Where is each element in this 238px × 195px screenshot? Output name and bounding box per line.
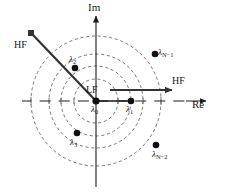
eigenvalue-dot-lambda-2: [72, 65, 79, 72]
low-frequency-label: LF: [86, 85, 98, 95]
lambda-N-1-subscript: N−1: [162, 51, 174, 58]
hf-arrow-diagonal-cap: [28, 30, 34, 36]
eigenvalue-label-lambda-1: λ1: [126, 105, 133, 114]
eigenvalue-label-lambda-0: λ0: [91, 105, 98, 114]
lambda-1-subscript: 1: [130, 108, 133, 115]
eigenvalue-label-lambda-2: λ2: [69, 55, 76, 64]
eigenvalue-label-lambda-N-1: λN−1: [158, 48, 174, 57]
eigenvalue-markers: [72, 51, 160, 149]
high-frequency-label-right: HF: [172, 76, 185, 86]
high-frequency-label-left: HF: [14, 40, 27, 50]
imaginary-axis-label: Im: [88, 2, 100, 13]
lambda-3-subscript: 3: [74, 141, 77, 148]
eigenvalue-dot-lambda-N-2: [153, 142, 160, 149]
real-axis-label: Re: [192, 99, 204, 110]
eigenvalue-label-lambda-N-2: λN−2: [152, 150, 168, 159]
eigenvalue-dot-lambda-3: [74, 130, 81, 137]
complex-plane-eigenvalue-figure: Im Re LF HF HF λ0 λ1 λ2 λ3 λN−1 λN−2: [0, 0, 238, 195]
eigenvalue-label-lambda-3: λ3: [70, 138, 77, 147]
lambda-N-2-subscript: N−2: [156, 153, 168, 160]
lambda-0-subscript: 0: [95, 108, 98, 115]
lambda-2-subscript: 2: [73, 58, 76, 65]
